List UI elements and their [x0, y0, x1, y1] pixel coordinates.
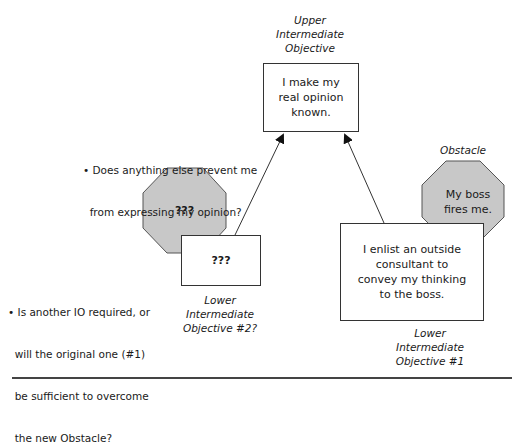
box-text-line: I enlist an outside — [363, 242, 461, 257]
label-line: Lower — [380, 326, 480, 340]
question-line: be sufficient to overcome — [8, 389, 178, 403]
label-line: Intermediate — [380, 340, 480, 354]
box-text-line: I make my — [282, 75, 340, 90]
label-line: Lower — [175, 293, 265, 307]
lower-objective-2-box: ??? — [181, 235, 261, 286]
label-line: Objective #1 — [380, 354, 480, 368]
label-line: Objective — [255, 41, 365, 55]
lower-objective-2-label: Lower Intermediate Objective #2? — [175, 293, 265, 335]
question-2: • Is another IO required, or will the or… — [8, 277, 178, 446]
question-line: the new Obstacle? — [8, 431, 178, 445]
caption-divider — [12, 377, 512, 379]
question-line: • Does anything else prevent me — [83, 163, 283, 177]
box-text-line: to the boss. — [380, 287, 445, 302]
question-line: will the original one (#1) — [8, 347, 178, 361]
upper-objective-box: I make my real opinion known. — [263, 63, 359, 132]
left-obstacle-text: ??? — [143, 198, 226, 222]
box-text-line: real opinion — [279, 90, 344, 105]
label-line: Intermediate — [175, 307, 265, 321]
label-line: Upper — [255, 13, 365, 27]
box-text-line: convey my thinking — [358, 272, 466, 287]
lower-objective-1-box: I enlist an outside consultant to convey… — [340, 223, 484, 321]
right-obstacle-label: Obstacle — [423, 143, 503, 157]
arrow-lio1-to-upper — [345, 135, 384, 223]
obstacle-text-line: fires me. — [444, 202, 492, 217]
box-text-line: known. — [291, 105, 331, 120]
box-text-line: consultant to — [376, 257, 448, 272]
upper-objective-label: Upper Intermediate Objective — [255, 13, 365, 55]
question-line: • Is another IO required, or — [8, 305, 178, 319]
obstacle-text-line: My boss — [446, 187, 491, 202]
label-line: Objective #2? — [175, 321, 265, 335]
lower-objective-1-label: Lower Intermediate Objective #1 — [380, 326, 480, 368]
right-obstacle-text: My boss fires me. — [432, 185, 504, 219]
label-line: Intermediate — [255, 27, 365, 41]
